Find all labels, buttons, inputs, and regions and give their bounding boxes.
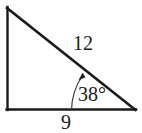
- triangle-drawing: [0, 0, 142, 133]
- angle-measure-label: 38°: [78, 84, 106, 104]
- triangle-hypotenuse: [7, 8, 136, 110]
- base-length-label: 9: [61, 112, 71, 132]
- angle-arc-arrowhead: [79, 73, 85, 79]
- triangle-figure: 12 38° 9: [0, 0, 142, 133]
- hypotenuse-length-label: 12: [73, 33, 93, 53]
